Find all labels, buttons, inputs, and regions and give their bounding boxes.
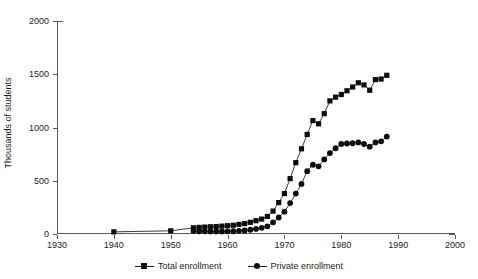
y-axis-top-tick: [57, 21, 63, 22]
legend-item-private-enrollment[interactable]: Private enrollment: [248, 261, 344, 271]
x-tick-label: 2000: [435, 241, 475, 250]
legend-swatch-circle-icon: [248, 262, 267, 271]
y-tick-mark: [53, 74, 57, 75]
chart-figure: Thousands of students 0500100015002000 1…: [0, 0, 478, 279]
legend-label-total-enrollment: Total enrollment: [158, 261, 222, 271]
x-tick-mark: [171, 235, 172, 239]
x-tick-label: 1940: [94, 241, 134, 250]
plot-area: [57, 21, 455, 234]
y-tick-mark: [53, 21, 57, 22]
legend-label-private-enrollment: Private enrollment: [271, 261, 344, 271]
x-tick-label: 1980: [321, 241, 361, 250]
x-tick-label: 1930: [37, 241, 77, 250]
x-tick-mark: [455, 235, 456, 239]
y-tick-mark: [53, 181, 57, 182]
legend-item-total-enrollment[interactable]: Total enrollment: [135, 261, 222, 271]
y-tick-label: 2000: [3, 17, 49, 26]
x-tick-label: 1950: [151, 241, 191, 250]
y-tick-label: 0: [3, 230, 49, 239]
x-tick-mark: [114, 235, 115, 239]
x-tick-mark: [341, 235, 342, 239]
x-tick-mark: [284, 235, 285, 239]
y-tick-label: 1000: [3, 124, 49, 133]
x-tick-label: 1960: [208, 241, 248, 250]
y-tick-label: 500: [3, 177, 49, 186]
x-tick-mark: [228, 235, 229, 239]
y-tick-label: 1500: [3, 70, 49, 79]
legend-swatch-square-icon: [135, 262, 154, 271]
x-tick-label: 1990: [378, 241, 418, 250]
y-tick-mark: [53, 128, 57, 129]
x-tick-label: 1970: [264, 241, 304, 250]
chart-legend: Total enrollment Private enrollment: [0, 258, 478, 274]
x-tick-mark: [57, 235, 58, 239]
x-tick-mark: [398, 235, 399, 239]
